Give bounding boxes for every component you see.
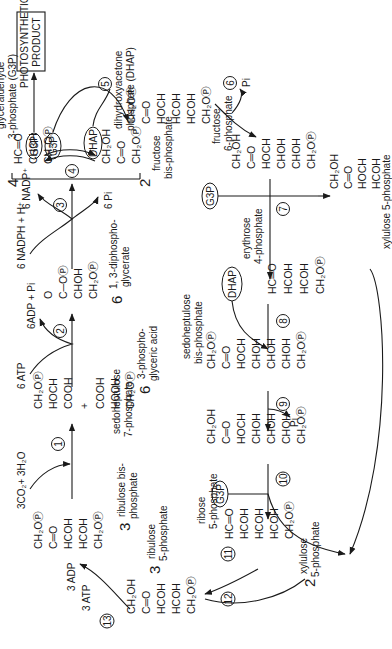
svg-text:CH₂OⓅ: CH₂OⓅ xyxy=(305,131,317,169)
svg-text:C═O: C═O xyxy=(47,526,59,549)
svg-text:CHOH: CHOH xyxy=(250,413,262,444)
adp-3: 3 ADP xyxy=(66,562,77,591)
step-11-badge: 11 xyxy=(221,547,235,561)
svg-text:HOCH: HOCH xyxy=(260,138,272,169)
svg-text:CHOH: CHOH xyxy=(290,138,302,169)
svg-text:HCOH: HCOH xyxy=(155,583,167,614)
step-2-badge: 2 xyxy=(54,325,67,338)
svg-text:C─OⓅ: C─OⓅ xyxy=(57,265,69,299)
svg-text:C═O: C═O xyxy=(115,141,127,164)
svg-text:sedoheptulose: sedoheptulose xyxy=(181,294,192,359)
dhap-oval-step8: DHAP xyxy=(222,267,242,301)
atp-3: 3 ATP xyxy=(81,584,92,611)
pi-step-6: Pi xyxy=(241,78,252,87)
svg-text:CH₂OⓅ: CH₂OⓅ xyxy=(130,126,142,164)
adp-6: 6ADP + Pi xyxy=(26,283,37,329)
svg-text:C═O: C═O xyxy=(220,421,232,444)
svg-text:xylulose 5-phosphate: xylulose 5-phosphate xyxy=(381,154,392,249)
svg-text:HOCH: HOCH xyxy=(235,413,247,444)
svg-text:HOCH: HOCH xyxy=(235,338,247,369)
ribulose-bisphosphate: CH₂OⓅ C═O HCOH HCOH CH₂OⓅ 3 ribulose bis… xyxy=(32,463,139,549)
photosynthetic-product-box: PHOTOSYNTHETIC PRODUCT xyxy=(17,0,45,88)
step-13-badge: 13 xyxy=(100,614,114,628)
nadp: 6 NADP⁺ xyxy=(21,168,32,209)
svg-text:1: 1 xyxy=(53,441,64,447)
dhap-count: 2 xyxy=(136,179,153,187)
g3p-oval-step7: G3P xyxy=(202,183,218,209)
svg-text:CH₂OⓅ: CH₂OⓅ xyxy=(42,126,54,164)
svg-text:G3P: G3P xyxy=(205,186,216,206)
erythrose-4-phosphate: erythrose 4-phosphate HC═O HCOH HCOH CH₂… xyxy=(241,208,326,294)
fructose-6-phosphate: fructose 6-phosphate CH₂OH C═O HOCH CHOH… xyxy=(211,95,317,169)
svg-text:CHOH: CHOH xyxy=(265,338,277,369)
product-label-1: PHOTOSYNTHETIC xyxy=(19,0,30,88)
nadph: 6 NADPH + H⁺ xyxy=(16,202,27,269)
svg-text:dihydroxyacetone: dihydroxyacetone xyxy=(113,50,124,129)
svg-text:HOCH: HOCH xyxy=(47,378,59,409)
svg-text:C═O: C═O xyxy=(140,591,152,614)
svg-text:CHOH: CHOH xyxy=(280,413,292,444)
svg-text:CHOH: CHOH xyxy=(250,338,262,369)
arrow-pi-step-3 xyxy=(72,197,98,219)
svg-text:CH₂OH: CH₂OH xyxy=(125,579,137,614)
svg-text:6: 6 xyxy=(108,296,125,304)
svg-text:9: 9 xyxy=(278,401,289,407)
svg-text:CH₂OH: CH₂OH xyxy=(328,154,340,189)
svg-text:glyceric acid: glyceric acid xyxy=(148,326,159,381)
svg-text:HCOH: HCOH xyxy=(170,583,182,614)
svg-text:11: 11 xyxy=(223,548,234,559)
svg-text:phosphate: phosphate xyxy=(128,472,139,519)
svg-text:5-phosphate: 5-phosphate xyxy=(208,473,219,529)
calvin-cycle-diagram: PHOTOSYNTHETIC PRODUCT G3P G3P DHAP 5 CH… xyxy=(0,0,392,649)
svg-text:CH₂OⓅ: CH₂OⓅ xyxy=(283,501,295,539)
svg-text:5-phosphate: 5-phosphate xyxy=(310,521,321,577)
step-10-badge: 10 xyxy=(276,472,290,486)
svg-text:CH₂OⓅ: CH₂OⓅ xyxy=(295,331,307,369)
dihydroxyacetone-phosphate: CH₂OH C═O CH₂OⓅ dihydroxyacetone phospha… xyxy=(100,47,142,164)
svg-text:glyceraldehyde: glyceraldehyde xyxy=(0,61,6,129)
svg-text:4-phosphate: 4-phosphate xyxy=(253,208,264,264)
step-7-badge: 7 xyxy=(277,203,290,216)
svg-text:3-phospho-: 3-phospho- xyxy=(136,328,147,379)
arrow-step-11 xyxy=(205,569,258,594)
svg-text:CH₂OⓅ: CH₂OⓅ xyxy=(92,511,104,549)
svg-text:HCOH: HCOH xyxy=(253,508,265,539)
svg-text:bis-phosphate: bis-phosphate xyxy=(193,301,204,364)
svg-text:6: 6 xyxy=(225,80,236,86)
svg-text:COOH: COOH xyxy=(94,378,106,410)
step-8-badge: 8 xyxy=(277,315,290,328)
svg-text:HC═O: HC═O xyxy=(223,508,235,539)
svg-text:C═O: C═O xyxy=(140,101,152,124)
svg-text:CH₂OⓅ: CH₂OⓅ xyxy=(314,256,326,294)
arrow-co2 xyxy=(30,464,70,489)
svg-text:HCOH: HCOH xyxy=(62,518,74,549)
svg-text:fructose: fructose xyxy=(151,135,162,171)
svg-text:5: 5 xyxy=(100,81,111,87)
step-6-badge: 6 xyxy=(224,77,237,90)
svg-text:HCOH: HCOH xyxy=(268,508,280,539)
svg-text:CHOH: CHOH xyxy=(27,133,39,164)
svg-text:+: + xyxy=(78,403,90,409)
svg-text:CHOH: CHOH xyxy=(275,138,287,169)
svg-text:7: 7 xyxy=(278,206,289,212)
step-1-badge: 1 xyxy=(52,438,65,451)
svg-text:HC═O: HC═O xyxy=(266,263,278,294)
svg-text:HOCH: HOCH xyxy=(356,158,368,189)
svg-text:CH₂OⓅ: CH₂OⓅ xyxy=(32,371,44,409)
svg-text:fructose: fructose xyxy=(211,108,222,144)
svg-text:CH₂OH: CH₂OH xyxy=(205,409,217,444)
svg-text:HCOH: HCOH xyxy=(298,263,310,294)
product-label-2: PRODUCT xyxy=(31,17,42,66)
svg-text:CH₂OⓅ: CH₂OⓅ xyxy=(124,371,136,409)
arrow-step-12 xyxy=(205,579,305,603)
svg-text:CH₂OH: CH₂OH xyxy=(230,134,242,169)
svg-text:CHOH: CHOH xyxy=(265,413,277,444)
ribulose-5-phosphate: CH₂OH C═O HCOH HCOH CH₂OⓅ 3 ribulose 5-p… xyxy=(125,505,197,614)
svg-text:6: 6 xyxy=(136,386,153,394)
arrow-xu5p-long xyxy=(350,269,383,554)
3-phosphoglyceric-acid: CH₂OⓅ HOCH COOH + COOH HCOH CH₂OⓅ 6 3-ph… xyxy=(32,326,159,409)
svg-text:glycerate: glycerate xyxy=(120,246,131,287)
svg-text:C═O: C═O xyxy=(245,146,257,169)
svg-text:HCOH: HCOH xyxy=(77,518,89,549)
svg-text:ribose: ribose xyxy=(196,496,207,524)
